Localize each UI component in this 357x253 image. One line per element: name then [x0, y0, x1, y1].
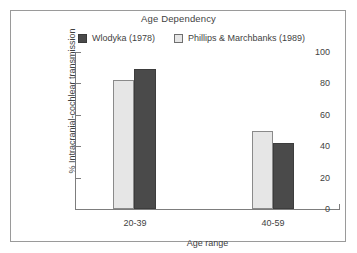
legend-item-wlodyka: Wlodyka (1978) — [78, 33, 155, 43]
chart-legend: Wlodyka (1978) Phillips & Marchbanks (19… — [78, 30, 340, 46]
chart-title: Age Dependency — [0, 13, 357, 24]
y-tick-label-80: 80 — [300, 79, 330, 88]
y-tick-0 — [76, 209, 81, 210]
y-tick-label-20: 20 — [300, 174, 330, 183]
legend-swatch-light — [174, 34, 183, 43]
y-tick-label-100: 100 — [300, 48, 330, 57]
y-tick-label-0: 0 — [300, 205, 330, 214]
y-axis-label: % Intracranial-cochlear transmission — [67, 11, 77, 191]
bar-wlodyka-40-59 — [273, 143, 294, 209]
y-tick-label-40: 40 — [300, 142, 330, 151]
bar-wlodyka-20-39 — [134, 69, 156, 209]
bar-phillips-20-39 — [113, 80, 134, 209]
legend-label-wlodyka: Wlodyka (1978) — [92, 33, 155, 43]
x-axis-label: Age range — [75, 238, 340, 248]
y-tick-label-60: 60 — [300, 111, 330, 120]
plot-area: 100 80 60 40 20 0 % Intracranial-cochlea… — [75, 52, 340, 209]
bar-phillips-40-59 — [252, 131, 273, 209]
x-tick-label-20-39: 20-39 — [90, 218, 180, 228]
legend-swatch-dark — [78, 34, 87, 43]
legend-item-phillips-marchbanks: Phillips & Marchbanks (1989) — [174, 33, 305, 43]
x-tick-label-40-59: 40-59 — [228, 218, 318, 228]
x-axis-endcap — [339, 204, 340, 210]
legend-label-phillips-marchbanks: Phillips & Marchbanks (1989) — [188, 33, 305, 43]
chart-figure: Age Dependency Wlodyka (1978) Phillips &… — [0, 0, 357, 253]
